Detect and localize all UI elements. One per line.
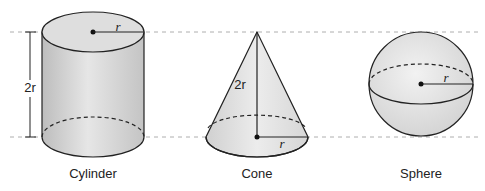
cone-radius-label: r [232,136,332,152]
cylinder-caption: Cylinder [43,166,143,181]
sphere-caption: Sphere [371,166,471,181]
cone-caption: Cone [207,166,307,181]
sphere-radius-label: r [396,70,485,86]
cone-height-label: 2r [215,77,265,92]
cylinder-height-label: 2r [5,80,55,95]
cylinder-radius-label: r [68,19,168,35]
